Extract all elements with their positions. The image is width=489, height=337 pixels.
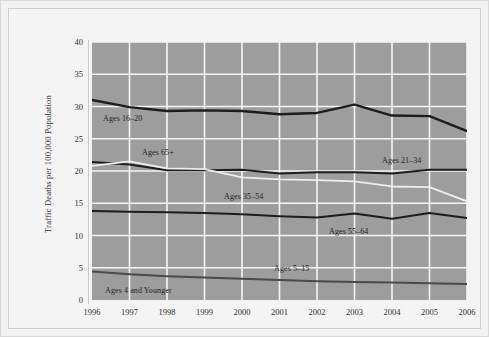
series-label-ages-21-34: Ages 21–34 [382, 156, 421, 165]
y-axis-tick-labels: 0510152025303540 [53, 9, 83, 337]
y-tick-label: 0 [57, 295, 83, 305]
y-tick-label: 30 [57, 102, 83, 112]
series-label-ages-16-20: Ages 16–20 [103, 114, 142, 123]
plot-area: Ages 16–20Ages 65+Ages 21–34Ages 35–54Ag… [92, 42, 467, 300]
series-label-ages-35-54: Ages 35–54 [224, 192, 263, 201]
chart-figure: Traffic Deaths per 100,000 Population 05… [0, 0, 489, 337]
series-label-ages-4-under: Ages 4 and Younger [105, 286, 172, 295]
chart-frame: Traffic Deaths per 100,000 Population 05… [8, 8, 481, 329]
y-tick-label: 15 [57, 198, 83, 208]
x-axis-tick-labels: 1996199719981999200020012002200320042005… [9, 307, 489, 323]
series-label-ages-5-15: Ages 5–15 [274, 264, 309, 273]
y-tick-label: 25 [57, 134, 83, 144]
y-tick-label: 10 [57, 231, 83, 241]
y-tick-label: 5 [57, 263, 83, 273]
y-tick-label: 35 [57, 69, 83, 79]
x-tick-label: 2006 [445, 307, 489, 317]
y-tick-label: 40 [57, 37, 83, 47]
y-axis-title: Traffic Deaths per 100,000 Population [43, 64, 53, 264]
series-label-ages-55-64: Ages 55–64 [329, 227, 368, 236]
y-axis-spine [88, 40, 89, 304]
series-label-ages-65-plus: Ages 65+ [142, 148, 174, 157]
chart-lines [92, 42, 467, 300]
y-tick-label: 20 [57, 166, 83, 176]
